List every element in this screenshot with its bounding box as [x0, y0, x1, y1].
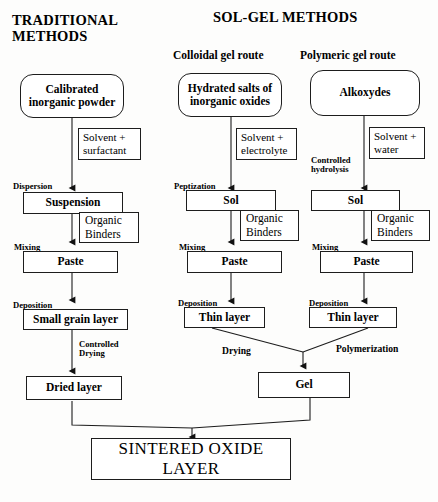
node-sol-colloidal[interactable]: Sol	[186, 190, 276, 211]
page-title-traditional: TRADITIONAL METHODS	[12, 12, 118, 44]
step-label-dispersion: Dispersion	[13, 182, 52, 191]
node-organic-binders-polymeric[interactable]: Organic Binders	[371, 210, 430, 241]
edge-dried-to-merge	[72, 401, 192, 428]
node-paste-colloidal[interactable]: Paste	[187, 251, 282, 273]
node-sol-polymeric[interactable]: Sol	[311, 190, 400, 211]
node-gel[interactable]: Gel	[258, 372, 350, 398]
node-sintered-oxide-layer[interactable]: SINTERED OXIDE LAYER	[91, 438, 291, 480]
node-solvent-water[interactable]: Solvent + water	[369, 127, 425, 159]
route-label-polymeric: Polymeric gel route	[300, 49, 396, 61]
node-alkoxydes[interactable]: Alkoxydes	[310, 70, 420, 116]
step-label-polymerization: Polymerization	[336, 344, 398, 355]
route-label-colloidal: Colloidal gel route	[173, 49, 264, 61]
node-solvent-surfactant[interactable]: Solvent + surfactant	[78, 128, 141, 160]
node-dried-layer[interactable]: Dried layer	[26, 376, 122, 400]
node-paste-traditional[interactable]: Paste	[23, 251, 118, 273]
node-small-grain-layer[interactable]: Small grain layer	[23, 309, 128, 330]
node-hydrated-salts[interactable]: Hydrated salts of inorganic oxides	[178, 73, 282, 117]
step-label-controlled-drying: Controlled Drying	[79, 340, 118, 359]
node-organic-binders-colloidal[interactable]: Organic Binders	[240, 210, 299, 241]
node-organic-binders-traditional[interactable]: Organic Binders	[79, 212, 139, 243]
node-solvent-electrolyte[interactable]: Solvent + electrolyte	[236, 128, 297, 160]
step-label-drying: Drying	[222, 346, 251, 357]
node-thin-layer-polymeric[interactable]: Thin layer	[309, 307, 397, 328]
page-title-solgel: SOL-GEL METHODS	[213, 9, 357, 25]
node-calibrated-inorganic-powder[interactable]: Calibrated inorganic powder	[20, 74, 124, 118]
node-suspension[interactable]: Suspension	[23, 192, 123, 214]
step-label-controlled-hydrolysis: Controlled hydrolysis	[311, 156, 350, 175]
node-thin-layer-colloidal[interactable]: Thin layer	[184, 307, 265, 328]
edge-gel-to-merge	[192, 398, 310, 428]
flowchart-diagram: TRADITIONAL METHODS SOL-GEL METHODS Coll…	[0, 0, 438, 502]
node-paste-polymeric[interactable]: Paste	[320, 251, 413, 273]
